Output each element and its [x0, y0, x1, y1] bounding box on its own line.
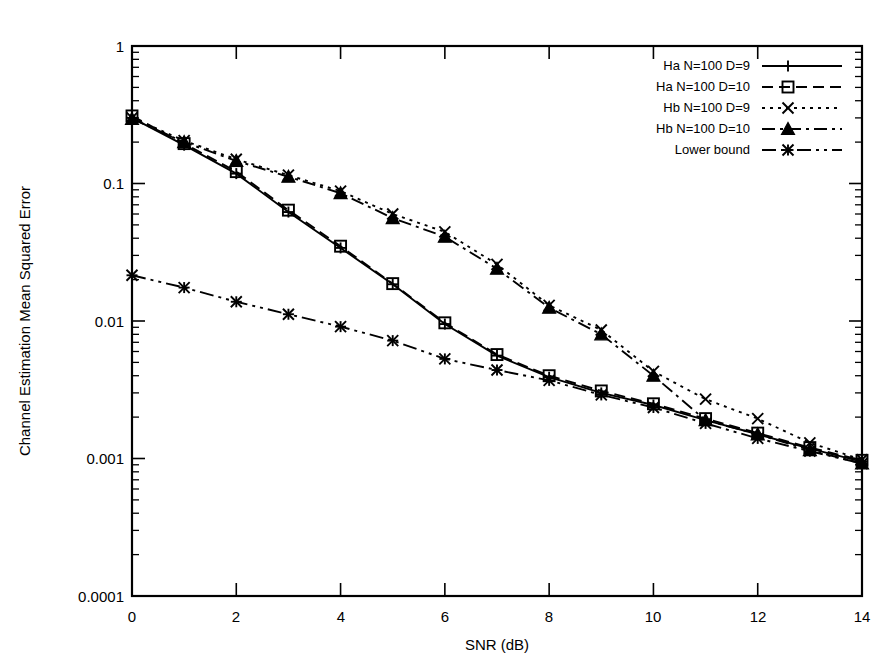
x-tick-label-0: 0 — [128, 608, 136, 625]
y-tick-label-0point001: 0.001 — [86, 450, 124, 467]
x-tick-label-10: 10 — [645, 608, 662, 625]
legend-label-2: Hb N=100 D=9 — [663, 100, 750, 115]
x-tick-label-6: 6 — [441, 608, 449, 625]
legend-label-0: Ha N=100 D=9 — [663, 58, 750, 73]
chart-background — [0, 0, 892, 666]
x-axis-title: SNR (dB) — [465, 636, 529, 653]
line-chart: 1 0.1 0.01 0.001 0.0001 0 2 4 6 8 10 12 … — [0, 0, 892, 666]
y-tick-label-1: 1 — [116, 38, 124, 55]
y-tick-label-0point1: 0.1 — [103, 175, 124, 192]
legend-label-3: Hb N=100 D=10 — [656, 121, 750, 136]
chart-container: 1 0.1 0.01 0.001 0.0001 0 2 4 6 8 10 12 … — [0, 0, 892, 666]
y-tick-label-0point01: 0.01 — [95, 313, 124, 330]
x-tick-label-8: 8 — [545, 608, 553, 625]
x-tick-label-12: 12 — [750, 608, 767, 625]
x-tick-label-2: 2 — [232, 608, 240, 625]
x-tick-label-4: 4 — [337, 608, 345, 625]
y-tick-label-0point0001: 0.0001 — [78, 588, 124, 605]
legend-label-1: Ha N=100 D=10 — [656, 79, 750, 94]
x-tick-label-14: 14 — [854, 608, 871, 625]
legend-label-4: Lower bound — [675, 142, 750, 157]
y-axis-title: Channel Estimation Mean Squared Error — [16, 186, 33, 456]
